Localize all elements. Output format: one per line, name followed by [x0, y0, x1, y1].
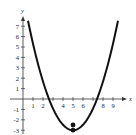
y-tick-label: -2: [14, 116, 19, 123]
data-point: [71, 128, 76, 133]
x-axis-label: x: [128, 95, 132, 102]
highlighted-points: [71, 123, 76, 133]
y-tick-label: 3: [16, 64, 19, 71]
x-tick-label: 9: [111, 102, 114, 109]
y-tick-label: 6: [16, 33, 20, 40]
y-tick-label: 1: [16, 85, 19, 92]
parabola-chart: y x 7654321-1-2-3 1245689: [0, 0, 136, 135]
y-axis-arrow-icon: [21, 16, 25, 21]
y-tick-label: 2: [16, 75, 19, 82]
y-axis-label: y: [20, 7, 24, 14]
y-tick-label: 5: [16, 43, 19, 50]
parabola-curve: [28, 21, 118, 131]
x-tick-label: 8: [101, 102, 104, 109]
y-tick-label: 4: [16, 54, 20, 61]
x-tick-label: 1: [31, 102, 34, 109]
x-tick-label: 6: [81, 102, 85, 109]
y-tick-label: -1: [14, 106, 19, 113]
x-tick-label: 2: [41, 102, 44, 109]
y-tick-label: 7: [16, 23, 20, 30]
data-point: [71, 123, 76, 128]
x-tick-label: 5: [71, 102, 74, 109]
x-tick-label: 4: [61, 102, 65, 109]
y-tick-label: -3: [14, 127, 19, 134]
x-axis-arrow-icon: [122, 97, 127, 101]
